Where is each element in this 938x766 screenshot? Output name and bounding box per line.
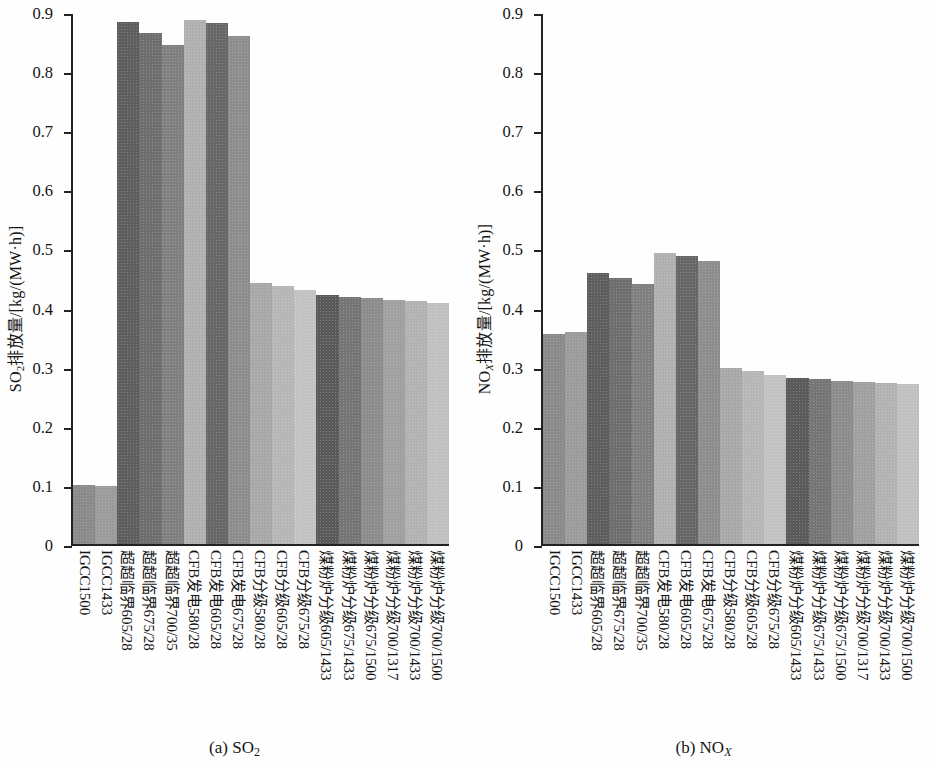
y-axis-title-nox: NOX排放量/[kg/(MW·h)] bbox=[471, 186, 493, 432]
y-tick-label: 0.6 bbox=[32, 181, 53, 201]
x-label-cell: 煤粉炉分级605/1433 bbox=[786, 548, 808, 724]
panel-caption-nox: (b) NOX bbox=[469, 738, 938, 760]
bar bbox=[383, 300, 405, 544]
y-tick-label: 0.5 bbox=[502, 240, 523, 260]
bar bbox=[272, 286, 294, 544]
y-tick: 0 bbox=[64, 546, 72, 548]
x-tick-label: CFB分级605/28 bbox=[743, 550, 764, 649]
y-tick-label: 0.1 bbox=[32, 476, 53, 496]
x-tick-label: CFB发电580/28 bbox=[654, 550, 675, 649]
bar bbox=[162, 45, 184, 544]
x-tick-label: 煤粉炉分级700/1500 bbox=[898, 550, 919, 680]
x-label-cell: 煤粉炉分级700/1433 bbox=[405, 548, 427, 724]
x-label-cell: 煤粉炉分级700/1500 bbox=[897, 548, 919, 724]
x-label-cell: 煤粉炉分级675/1433 bbox=[339, 548, 361, 724]
x-label-cell: CFB发电675/28 bbox=[698, 548, 720, 724]
x-label-cell: IGCC1433 bbox=[95, 548, 117, 724]
x-label-cell: CFB分级605/28 bbox=[742, 548, 764, 724]
x-label-cell: 煤粉炉分级605/1433 bbox=[316, 548, 338, 724]
x-tick-label: IGCC1433 bbox=[98, 550, 115, 615]
x-tick-label: CFB分级580/28 bbox=[721, 550, 742, 649]
x-tick-label: IGCC1500 bbox=[76, 550, 93, 615]
y-tick: 0.2 bbox=[534, 428, 542, 430]
x-axis-labels-nox: IGCC1500IGCC1433超超临界605/28超超临界675/28超超临界… bbox=[543, 548, 919, 724]
x-tick-label: CFB发电580/28 bbox=[184, 550, 205, 649]
y-tick: 0.9 bbox=[534, 14, 542, 16]
bar bbox=[339, 297, 361, 544]
bar bbox=[294, 290, 316, 544]
y-tick-label: 0 bbox=[45, 536, 53, 556]
y-tick-label: 0 bbox=[515, 536, 523, 556]
y-tick-label: 0.9 bbox=[32, 4, 53, 24]
x-tick-label: 超超临界700/35 bbox=[632, 550, 653, 651]
x-label-cell: CFB发电605/28 bbox=[676, 548, 698, 724]
y-tick-label: 0.6 bbox=[502, 181, 523, 201]
x-tick-label: CFB分级580/28 bbox=[251, 550, 272, 649]
x-tick-label: IGCC1500 bbox=[546, 550, 563, 615]
bar bbox=[632, 284, 654, 544]
x-label-cell: IGCC1433 bbox=[565, 548, 587, 724]
x-tick-label: 煤粉炉分级700/1500 bbox=[428, 550, 449, 680]
panel-so2: SO2排放量/[kg/(MW·h)] 0.90.80.70.60.50.40.3… bbox=[0, 0, 469, 766]
bar bbox=[405, 301, 427, 544]
bar bbox=[809, 379, 831, 544]
x-label-cell: 煤粉炉分级700/1500 bbox=[427, 548, 449, 724]
y-tick: 0 bbox=[534, 546, 542, 548]
x-label-cell: 煤粉炉分级675/1500 bbox=[361, 548, 383, 724]
x-tick-label: 煤粉炉分级700/1433 bbox=[875, 550, 896, 680]
figure-two-panel-bar-charts: SO2排放量/[kg/(MW·h)] 0.90.80.70.60.50.40.3… bbox=[0, 0, 938, 766]
x-label-cell: 超超临界700/35 bbox=[162, 548, 184, 724]
x-tick-label: 煤粉炉分级700/1317 bbox=[383, 550, 404, 680]
bar bbox=[427, 303, 449, 544]
x-tick-label: 超超临界675/28 bbox=[610, 550, 631, 651]
x-label-cell: 煤粉炉分级700/1433 bbox=[875, 548, 897, 724]
y-tick: 0.8 bbox=[64, 73, 72, 75]
y-tick: 0.4 bbox=[534, 310, 542, 312]
bar bbox=[73, 485, 95, 544]
bar bbox=[764, 375, 786, 544]
x-label-cell: CFB分级675/28 bbox=[294, 548, 316, 724]
y-tick: 0.8 bbox=[534, 73, 542, 75]
bar bbox=[786, 378, 808, 544]
bar bbox=[95, 486, 117, 544]
bar bbox=[742, 371, 764, 544]
x-label-cell: CFB发电605/28 bbox=[206, 548, 228, 724]
bar bbox=[565, 332, 587, 544]
bar-series-nox bbox=[543, 14, 919, 544]
bar bbox=[250, 283, 272, 544]
y-tick: 0.3 bbox=[64, 369, 72, 371]
y-tick: 0.7 bbox=[534, 132, 542, 134]
x-tick-label: 煤粉炉分级675/1433 bbox=[809, 550, 830, 680]
x-tick-label: CFB分级675/28 bbox=[295, 550, 316, 649]
bar bbox=[316, 295, 338, 544]
x-label-cell: 超超临界700/35 bbox=[632, 548, 654, 724]
y-tick-label: 0.4 bbox=[502, 299, 523, 319]
bar bbox=[117, 22, 139, 544]
y-tick: 0.6 bbox=[64, 191, 72, 193]
y-tick: 0.2 bbox=[64, 428, 72, 430]
x-label-cell: CFB发电580/28 bbox=[654, 548, 676, 724]
bar bbox=[361, 298, 383, 544]
y-tick: 0.5 bbox=[64, 250, 72, 252]
x-tick-label: 煤粉炉分级700/1433 bbox=[405, 550, 426, 680]
bar-series-so2 bbox=[73, 14, 449, 544]
bar bbox=[676, 256, 698, 544]
y-tick-label: 0.2 bbox=[32, 417, 53, 437]
y-tick-label: 0.2 bbox=[502, 417, 523, 437]
panel-nox: NOX排放量/[kg/(MW·h)] 0.90.80.70.60.50.40.3… bbox=[469, 0, 938, 766]
x-label-cell: 煤粉炉分级675/1500 bbox=[831, 548, 853, 724]
x-tick-label: 煤粉炉分级605/1433 bbox=[317, 550, 338, 680]
x-label-cell: 煤粉炉分级675/1433 bbox=[809, 548, 831, 724]
x-label-cell: CFB发电675/28 bbox=[228, 548, 250, 724]
bar bbox=[139, 33, 161, 544]
bar bbox=[206, 23, 228, 544]
y-tick-label: 0.3 bbox=[502, 358, 523, 378]
bar bbox=[609, 278, 631, 544]
x-tick-label: 煤粉炉分级675/1433 bbox=[339, 550, 360, 680]
y-tick: 0.1 bbox=[64, 487, 72, 489]
x-label-cell: CFB分级580/28 bbox=[720, 548, 742, 724]
plot-area-so2: 0.90.80.70.60.50.40.30.20.10 bbox=[71, 14, 449, 546]
bar bbox=[875, 383, 897, 544]
x-label-cell: 超超临界605/28 bbox=[117, 548, 139, 724]
x-tick-label: 煤粉炉分级675/1500 bbox=[831, 550, 852, 680]
